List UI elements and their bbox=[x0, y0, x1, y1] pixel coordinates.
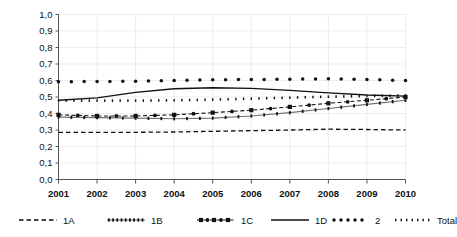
x-tick-label: 2007 bbox=[279, 188, 300, 199]
x-tick-label: 2006 bbox=[241, 188, 262, 199]
y-tick-label: 1,0 bbox=[39, 9, 52, 20]
y-tick-label: 0,9 bbox=[39, 25, 52, 36]
legend-label: 1B bbox=[151, 215, 163, 226]
x-tick-label: 2009 bbox=[356, 188, 377, 199]
x-tick-label: 2010 bbox=[395, 188, 416, 199]
y-tick-label: 0,7 bbox=[39, 58, 52, 69]
legend-item-2[interactable]: 2 bbox=[330, 215, 380, 226]
series-1D bbox=[59, 88, 406, 101]
legend-label: 1A bbox=[63, 215, 75, 226]
x-tick-label: 2008 bbox=[318, 188, 339, 199]
legend-item-1A[interactable]: 1A bbox=[18, 215, 75, 226]
y-tick-label: 0,5 bbox=[39, 91, 52, 102]
series-Total bbox=[58, 94, 406, 102]
x-tick-label: 2002 bbox=[86, 188, 107, 199]
plot-area: 0,00,10,20,30,40,50,60,70,80,91,0 200120… bbox=[0, 0, 450, 200]
round-dots-sample bbox=[330, 215, 370, 225]
y-axis-ticks: 0,00,10,20,30,40,50,60,70,80,91,0 bbox=[39, 9, 58, 185]
small-dots-sample bbox=[392, 215, 432, 225]
legend-item-1D[interactable]: 1D bbox=[270, 215, 327, 226]
legend-label: Total bbox=[437, 215, 457, 226]
legend-item-1C[interactable]: 1C bbox=[196, 215, 253, 226]
dashed-line-sample bbox=[18, 215, 58, 225]
y-tick-label: 0,6 bbox=[39, 75, 52, 86]
y-tick-label: 0,8 bbox=[39, 42, 52, 53]
x-tick-label: 2004 bbox=[164, 188, 186, 199]
fine-dotted-line-sample bbox=[106, 215, 146, 225]
y-tick-label: 0,2 bbox=[39, 141, 52, 152]
y-tick-label: 0,0 bbox=[39, 174, 52, 185]
x-tick-label: 2003 bbox=[125, 188, 146, 199]
legend-item-1B[interactable]: 1B bbox=[106, 215, 163, 226]
legend-label: 2 bbox=[375, 215, 380, 226]
line-chart-svg: 0,00,10,20,30,40,50,60,70,80,91,0 200120… bbox=[0, 0, 450, 200]
x-axis-ticks: 2001200220032004200520062007200820092010 bbox=[48, 180, 416, 199]
x-tick-label: 2001 bbox=[48, 188, 70, 199]
gridlines bbox=[59, 15, 406, 180]
series-1B bbox=[58, 99, 407, 121]
dash-dot-square-sample bbox=[196, 215, 236, 225]
y-tick-label: 0,3 bbox=[39, 124, 52, 135]
y-tick-label: 0,4 bbox=[39, 108, 52, 119]
chart-legend: 1A1B1C1D2Total bbox=[0, 205, 450, 235]
data-series bbox=[56, 77, 407, 132]
x-tick-label: 2005 bbox=[202, 188, 224, 199]
legend-label: 1D bbox=[315, 215, 327, 226]
y-tick-label: 0,1 bbox=[39, 157, 52, 168]
legend-item-Total[interactable]: Total bbox=[392, 215, 457, 226]
solid-line-sample bbox=[270, 215, 310, 225]
legend-label: 1C bbox=[241, 215, 253, 226]
